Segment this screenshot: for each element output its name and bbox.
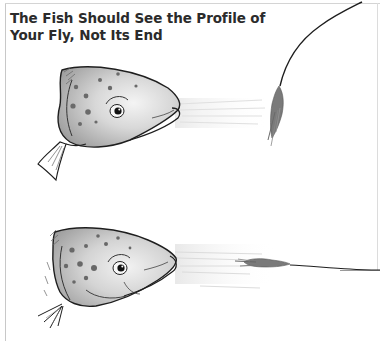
top-fly — [268, 86, 283, 146]
bottom-pectoral-fin — [38, 304, 63, 328]
figure-title-line-2: Your Fly, Not Its End — [10, 27, 250, 44]
top-trout-head — [38, 67, 180, 180]
top-wake-lines — [175, 98, 270, 128]
figure-title: The Fish Should See the Profile of Your … — [10, 10, 250, 44]
fly-fishing-illustration — [0, 0, 380, 343]
figure-title-line-1: The Fish Should See the Profile of — [10, 10, 250, 27]
top-leader-line — [280, 2, 362, 86]
bottom-panel — [38, 228, 380, 328]
illustration-page: The Fish Should See the Profile of Your … — [0, 0, 380, 343]
bottom-trout-head — [38, 228, 176, 328]
top-pectoral-fin — [38, 142, 86, 180]
bottom-leader-line — [290, 265, 380, 270]
